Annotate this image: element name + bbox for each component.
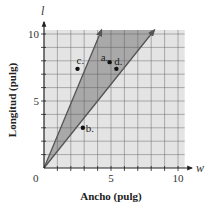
- point-d: [114, 67, 118, 71]
- y-axis-variable: l: [41, 4, 45, 18]
- y-axis-title: Longitud (pulg): [6, 63, 19, 138]
- x-axis-variable: w: [196, 161, 204, 175]
- y-tick-label: 10: [28, 28, 40, 40]
- point-label: b.: [86, 122, 95, 134]
- x-axis-title: Ancho (pulg): [80, 190, 142, 203]
- point-label: a.: [101, 51, 109, 63]
- x-tick-label: 10: [173, 172, 185, 184]
- point-b: [81, 126, 85, 130]
- chart: a.b.c.d. 0 w l Ancho (pulg) Longitud (pu…: [0, 0, 216, 207]
- x-tick-label: 5: [108, 172, 114, 184]
- y-tick-label: 5: [34, 95, 40, 107]
- origin-label: 0: [33, 172, 39, 184]
- point-c: [75, 67, 79, 71]
- point-label: d.: [114, 55, 123, 67]
- point-label: c.: [77, 54, 85, 66]
